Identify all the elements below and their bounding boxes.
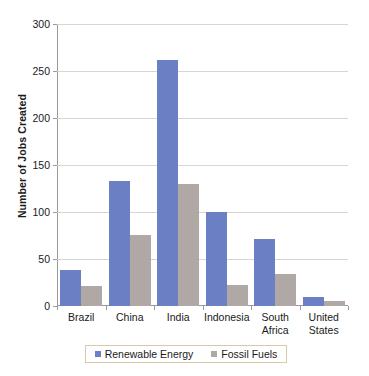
- bar: [60, 270, 81, 306]
- bar-group: [300, 24, 349, 306]
- bar: [178, 184, 199, 306]
- x-axis-category-label: UnitedStates: [300, 311, 349, 336]
- category-label-line: Brazil: [57, 311, 106, 324]
- category-label-line: South: [251, 311, 300, 324]
- chart-legend: Renewable Energy Fossil Fuels: [85, 345, 287, 363]
- bar-groups: [57, 24, 348, 306]
- category-label-line: China: [106, 311, 155, 324]
- bar: [303, 297, 324, 306]
- y-axis-tick-label: 200: [32, 112, 50, 124]
- category-label-line: Africa: [251, 324, 300, 337]
- y-axis-title: Number of Jobs Created: [16, 71, 28, 241]
- bar: [275, 274, 296, 306]
- legend-label-fossil: Fossil Fuels: [221, 348, 277, 360]
- bar: [206, 212, 227, 306]
- category-labels: BrazilChinaIndiaIndonesiaSouthAfricaUnit…: [57, 311, 348, 336]
- bar-group: [203, 24, 252, 306]
- y-axis-tick-label: 0: [44, 300, 50, 312]
- category-label-line: States: [300, 324, 349, 337]
- x-axis-category-label: Brazil: [57, 311, 106, 336]
- y-axis-tick-label: 50: [38, 253, 50, 265]
- y-axis-tick-label: 100: [32, 206, 50, 218]
- legend-swatch-icon-renewable: [95, 351, 101, 357]
- y-axis-tick-label: 250: [32, 65, 50, 77]
- x-axis-tick-mark: [348, 306, 349, 310]
- x-axis-tick-mark: [300, 306, 301, 310]
- plot-area: 300250200150100500: [57, 24, 348, 306]
- x-axis-tick-mark: [106, 306, 107, 310]
- bar-group: [106, 24, 155, 306]
- x-axis-category-label: China: [106, 311, 155, 336]
- bar-group: [251, 24, 300, 306]
- x-axis-category-label: Indonesia: [203, 311, 252, 336]
- x-axis-tick-mark: [57, 306, 58, 310]
- category-label-line: United: [300, 311, 349, 324]
- x-axis-tick-mark: [203, 306, 204, 310]
- y-axis-tick-label: 150: [32, 159, 50, 171]
- legend-swatch-icon-fossil: [211, 351, 217, 357]
- bar: [130, 235, 151, 306]
- x-axis-ticks: [57, 306, 348, 310]
- legend-entry-fossil-fuels: Fossil Fuels: [211, 348, 277, 360]
- bar-group: [57, 24, 106, 306]
- bar: [227, 285, 248, 306]
- bar: [157, 60, 178, 306]
- x-axis-tick-mark: [154, 306, 155, 310]
- bar: [254, 239, 275, 306]
- bar: [81, 286, 102, 306]
- y-axis-tick-label: 300: [32, 18, 50, 30]
- x-axis-tick-mark: [251, 306, 252, 310]
- bar-group: [154, 24, 203, 306]
- legend-label-renewable: Renewable Energy: [105, 348, 194, 360]
- category-label-line: India: [154, 311, 203, 324]
- x-axis-category-label: SouthAfrica: [251, 311, 300, 336]
- x-axis-category-label: India: [154, 311, 203, 336]
- legend-entry-renewable-energy: Renewable Energy: [95, 348, 194, 360]
- bar: [109, 181, 130, 306]
- bar-chart: Number of Jobs Created 30025020015010050…: [0, 0, 369, 376]
- category-label-line: Indonesia: [203, 311, 252, 324]
